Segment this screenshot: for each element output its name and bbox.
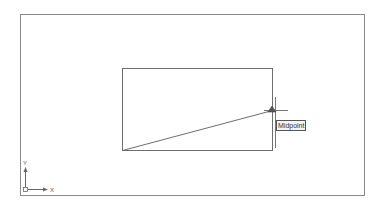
ucs-origin-square: [24, 188, 28, 192]
drawing-canvas[interactable]: [0, 0, 384, 207]
ucs-x-arrow-icon: [43, 188, 48, 192]
ucs-y-arrow-icon: [24, 167, 28, 172]
midpoint-marker: [268, 106, 276, 112]
rectangle[interactable]: [123, 69, 273, 151]
diagonal-line[interactable]: [123, 111, 273, 151]
ucs-y-label: Y: [23, 160, 27, 166]
snap-tooltip: Midpoint: [276, 120, 306, 131]
ucs-x-label: X: [50, 187, 54, 193]
ucs-icon: [24, 167, 49, 192]
viewport-frame: [21, 15, 365, 196]
